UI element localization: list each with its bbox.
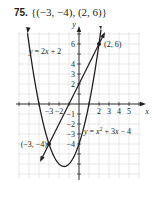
x-tick-label: 3 bbox=[107, 107, 111, 116]
parabola-arrow-right-icon bbox=[98, 23, 102, 29]
x-tick-label: 5 bbox=[127, 107, 131, 116]
y-tick-label: −4 bbox=[66, 140, 75, 149]
intersection-point bbox=[97, 42, 101, 46]
parabola-arrow-left-icon bbox=[26, 27, 30, 33]
y-tick-label: 2 bbox=[71, 80, 75, 89]
y-tick-label: 6 bbox=[71, 40, 75, 49]
line-equation-label: y = 2x + 2 bbox=[28, 47, 61, 56]
x-axis-arrow-icon bbox=[140, 102, 146, 106]
y-tick-label: −1 bbox=[66, 110, 75, 119]
x-tick-label: −2 bbox=[55, 107, 64, 116]
x-axis-label: x bbox=[144, 107, 149, 116]
x-tick-label: −3 bbox=[45, 107, 54, 116]
parabola-equation-label: y = x2 + 3x − 4 bbox=[83, 126, 131, 136]
labels: xy−3−223456432−1−2−3−4(2, 6)(−3, −4)y = … bbox=[21, 20, 150, 149]
graph: xy−3−223456432−1−2−3−4(2, 6)(−3, −4)y = … bbox=[0, 0, 152, 207]
y-axis-arrow-icon bbox=[77, 26, 81, 32]
y-tick-label: 4 bbox=[71, 60, 75, 69]
y-tick-label: −2 bbox=[66, 120, 75, 129]
x-tick-label: 2 bbox=[97, 107, 101, 116]
x-tick-label: 4 bbox=[117, 107, 121, 116]
y-tick-label: −3 bbox=[66, 130, 75, 139]
point-label-2-6: (2, 6) bbox=[104, 40, 122, 49]
y-axis-label: y bbox=[71, 20, 76, 29]
point-label-neg3-neg4: (−3, −4) bbox=[21, 140, 48, 149]
y-tick-label: 3 bbox=[71, 70, 75, 79]
intersection-point bbox=[47, 142, 51, 146]
line-arrow-down-icon bbox=[40, 156, 45, 162]
